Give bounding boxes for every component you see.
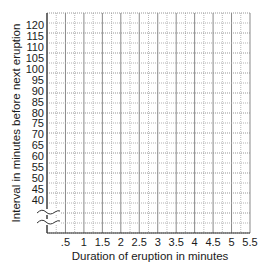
y-tick-label: 95 <box>32 74 44 86</box>
x-tick-label: .5 <box>61 236 70 248</box>
y-axis-label: Interval in minutes before next eruption <box>10 24 22 223</box>
x-axis-ticks: .511.522.533.544.555.5 <box>61 236 258 248</box>
x-axis-label: Duration of eruption in minutes <box>72 250 229 262</box>
y-tick-label: 110 <box>26 41 44 53</box>
chart: 404550556065707580859095100105110115120 … <box>0 0 264 266</box>
x-tick-label: 1.5 <box>95 236 110 248</box>
y-tick-label: 70 <box>32 128 44 140</box>
y-tick-label: 75 <box>32 117 44 129</box>
y-tick-label: 65 <box>32 139 44 151</box>
y-tick-label: 60 <box>32 150 44 162</box>
x-tick-label: 5 <box>228 236 234 248</box>
grid <box>47 13 250 233</box>
y-tick-label: 50 <box>32 172 44 184</box>
x-tick-label: 4 <box>192 236 198 248</box>
x-tick-label: 3.5 <box>169 236 184 248</box>
x-tick-label: 1 <box>81 236 87 248</box>
x-tick-label: 2.5 <box>132 236 147 248</box>
y-axis-ticks: 404550556065707580859095100105110115120 <box>26 19 44 206</box>
y-tick-label: 40 <box>32 194 44 206</box>
x-tick-label: 5.5 <box>242 236 257 248</box>
y-tick-label: 100 <box>26 63 44 75</box>
y-tick-label: 80 <box>32 107 44 119</box>
x-tick-label: 2 <box>118 236 124 248</box>
y-tick-label: 115 <box>26 30 44 42</box>
y-tick-label: 105 <box>26 52 44 64</box>
x-tick-label: 4.5 <box>205 236 220 248</box>
y-tick-label: 85 <box>32 96 44 108</box>
y-tick-label: 120 <box>26 19 44 31</box>
x-tick-label: 3 <box>155 236 161 248</box>
y-tick-label: 90 <box>32 85 44 97</box>
y-tick-label: 45 <box>32 183 44 195</box>
y-tick-label: 55 <box>32 161 44 173</box>
